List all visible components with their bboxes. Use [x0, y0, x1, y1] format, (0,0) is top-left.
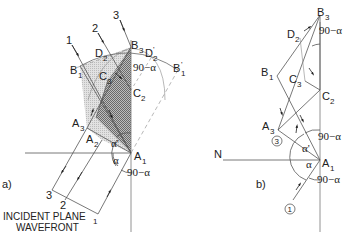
label-a3-b: A 3 — [262, 120, 275, 136]
svg-text:': ' — [181, 60, 183, 69]
svg-text:A: A — [134, 150, 142, 162]
angle-arc-big-b — [290, 134, 306, 180]
arrow-b-c3 — [309, 68, 313, 74]
label-c2-a: C 2 — [133, 87, 146, 103]
svg-text:B: B — [70, 64, 77, 76]
circled-3-b: 3 — [272, 136, 282, 146]
svg-text:1: 1 — [288, 205, 293, 214]
svg-text:3: 3 — [270, 127, 275, 136]
label-b1-b: B 1 — [261, 66, 274, 82]
panel-label-b: b) — [256, 178, 266, 190]
angle-label-alpha-b: α — [306, 158, 312, 170]
panel-a: 1 2 3 B 3 D 2 D ' 2 B 1 B ' 1 C 3 C — [2, 9, 186, 233]
svg-text:3: 3 — [275, 137, 280, 146]
normal-label-n: N — [214, 148, 222, 160]
angle-label-top-b: 90−α — [319, 24, 342, 36]
svg-text:A: A — [322, 157, 330, 169]
svg-text:2: 2 — [94, 140, 99, 149]
label-b3-b: B 3 — [317, 6, 330, 22]
line-d2-c3 — [300, 38, 305, 81]
figure-canvas: 1 2 3 B 3 D 2 D ' 2 B 1 B ' 1 C 3 C — [0, 0, 357, 246]
label-b1prime-a: B ' 1 — [173, 60, 186, 78]
ray-arrow-3 — [120, 20, 124, 30]
svg-text:A: A — [72, 117, 80, 129]
ray-arrow-1 — [72, 45, 78, 55]
svg-text:B: B — [131, 39, 138, 51]
refraction-diagram: 1 2 3 B 3 D 2 D ' 2 B 1 B ' 1 C 3 C — [0, 0, 357, 246]
label-c3-b: C 3 — [289, 73, 302, 89]
svg-text:1: 1 — [142, 157, 147, 166]
angle-label-bottom-a: 90−α — [127, 166, 150, 178]
svg-text:1: 1 — [181, 69, 186, 78]
svg-text:D: D — [287, 28, 295, 40]
svg-text:1: 1 — [78, 71, 83, 80]
wavefront-point-2: 2 — [60, 199, 66, 211]
svg-text:3: 3 — [325, 13, 330, 22]
angle-arc-top-b — [312, 44, 320, 46]
label-a1-a: A 1 — [134, 150, 147, 166]
ray-label-1: 1 — [66, 34, 72, 46]
svg-text:C: C — [289, 73, 297, 85]
wavefront-point-3: 3 — [46, 189, 52, 201]
svg-text:B: B — [173, 62, 180, 74]
arrow-down-3 — [62, 166, 66, 172]
label-a1-b: A 1 — [322, 157, 335, 173]
incident-ray-3 — [52, 128, 87, 190]
panel-label-a: a) — [2, 178, 12, 190]
svg-text:C: C — [99, 70, 107, 82]
svg-text:3: 3 — [80, 124, 85, 133]
svg-text:C: C — [133, 87, 141, 99]
angle-label-alpha-prime-b: α' — [302, 142, 310, 154]
label-c2-b: C 2 — [322, 90, 335, 106]
svg-text:3: 3 — [107, 77, 112, 86]
label-d2-b: D 2 — [287, 28, 300, 44]
line-a3-c2 — [278, 90, 320, 130]
incident-ray-2 — [65, 140, 102, 200]
angle-label-top-a: 90−α — [133, 61, 156, 73]
ray-label-3: 3 — [113, 9, 119, 21]
svg-text:2: 2 — [103, 54, 108, 63]
arrow-b-up — [296, 126, 297, 133]
arrow-b-1 — [296, 184, 300, 190]
line-a3-a1 — [278, 130, 320, 160]
svg-text:D: D — [145, 47, 153, 59]
line-b3-a3 — [278, 15, 320, 130]
caption-wavefront: WAVEFRONT — [16, 222, 79, 233]
arrow-b-down-1 — [280, 108, 282, 114]
angle-label-bottom-b: 90−α — [317, 173, 340, 185]
svg-text:1: 1 — [330, 164, 335, 173]
svg-text:3: 3 — [139, 46, 144, 55]
svg-text:D: D — [95, 47, 103, 59]
caption-incident-plane: INCIDENT PLANE — [3, 211, 86, 222]
arrow-up-1 — [107, 191, 110, 197]
angle-label-alpha-a: α — [113, 154, 119, 166]
circled-1-b: 1 — [285, 204, 295, 214]
dashed-line-b1prime — [131, 70, 178, 153]
label-a3-a: A 3 — [72, 117, 85, 133]
wavefront-point-1: 1 — [93, 217, 98, 226]
svg-text:': ' — [153, 45, 155, 54]
ray-label-2: 2 — [92, 22, 98, 34]
ray-arrow-2 — [98, 33, 103, 42]
arrow-b-down-2 — [300, 115, 303, 121]
svg-text:1: 1 — [269, 73, 274, 82]
svg-text:B: B — [261, 66, 268, 78]
svg-text:B: B — [317, 6, 324, 18]
line-c3-c2 — [305, 81, 320, 90]
svg-text:A: A — [86, 133, 94, 145]
svg-text:2: 2 — [330, 97, 335, 106]
svg-text:3: 3 — [297, 80, 302, 89]
angle-label-mid-top-b: 90−α — [318, 130, 341, 142]
svg-text:2: 2 — [295, 35, 300, 44]
svg-text:2: 2 — [141, 94, 146, 103]
svg-text:A: A — [262, 120, 270, 132]
svg-text:C: C — [322, 90, 330, 102]
label-b3-a: B 3 — [131, 39, 144, 55]
angle-label-alpha-prime-a: α' — [111, 137, 119, 149]
arrow-down-2 — [78, 172, 82, 179]
panel-b: B 3 D 2 90−α B 1 C 3 C 2 A 3 3 90−α α' N — [214, 6, 342, 232]
